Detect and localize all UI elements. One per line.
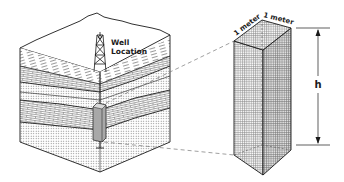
unit-prism bbox=[234, 20, 291, 175]
well-label-line1: Well bbox=[111, 38, 129, 47]
sampled-column bbox=[93, 103, 106, 142]
height-dimension-arrow bbox=[296, 28, 330, 145]
height-label: h bbox=[315, 79, 322, 90]
well-label-line2: Location bbox=[111, 47, 147, 56]
diagram-canvas: Well Location 1 meter 1 meter h bbox=[0, 0, 344, 182]
